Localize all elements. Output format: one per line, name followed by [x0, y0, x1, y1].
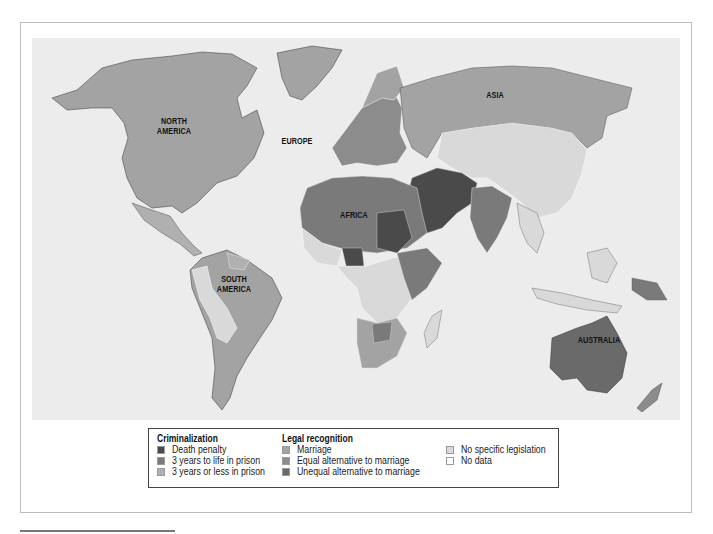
legend-swatch	[282, 468, 290, 476]
label-south-america: SOUTH AMERICA	[209, 274, 260, 294]
label-north-america: NORTH AMERICA	[149, 116, 200, 136]
footnote-rule	[20, 530, 175, 532]
map-legend: Criminalization Death penalty 3 years to…	[148, 428, 559, 488]
label-line: AMERICA	[209, 284, 260, 294]
label-line: AUSTRALIA	[574, 335, 625, 345]
legend-heading: Criminalization	[157, 433, 260, 444]
legend-criminalization: Criminalization Death penalty 3 years to…	[157, 433, 278, 477]
legend-item: 3 years to life in prison	[157, 455, 278, 466]
region-central-america	[132, 203, 202, 256]
legend-label: Death penalty	[172, 444, 226, 455]
region-borneo	[587, 248, 617, 283]
legend-heading: Legal recognition	[282, 433, 413, 444]
region-new-zealand	[637, 383, 662, 412]
legend-label: Marriage	[297, 444, 332, 455]
label-line: AMERICA	[149, 126, 200, 136]
legend-item: No data	[446, 455, 557, 466]
legend-item: Death penalty	[157, 444, 278, 455]
region-madagascar	[424, 310, 442, 348]
legend-label: 3 years to life in prison	[172, 455, 260, 466]
label-australia: AUSTRALIA	[574, 335, 625, 345]
region-png	[632, 278, 667, 300]
world-map: NORTH AMERICA EUROPE ASIA AFRICA SOUTH A…	[32, 38, 680, 420]
legend-item: Unequal alternative to marriage	[282, 466, 437, 477]
legend-other: No specific legislation No data	[446, 444, 557, 466]
legend-item: No specific legislation	[446, 444, 557, 455]
world-map-svg	[32, 38, 680, 420]
label-europe: EUROPE	[276, 136, 319, 146]
region-greenland	[277, 46, 342, 100]
legend-legal-recognition: Legal recognition Marriage Equal alterna…	[282, 433, 437, 477]
region-australia	[550, 316, 627, 393]
legend-swatch	[446, 446, 454, 454]
legend-label: Equal alternative to marriage	[297, 455, 410, 466]
region-south-asia	[470, 186, 512, 253]
region-indonesia	[532, 288, 622, 313]
label-line: NORTH	[149, 116, 200, 126]
legend-label: No specific legislation	[461, 444, 546, 455]
label-africa: AFRICA	[335, 210, 372, 220]
legend-item: Equal alternative to marriage	[282, 455, 437, 466]
label-asia: ASIA	[482, 90, 508, 100]
label-line: AFRICA	[335, 210, 372, 220]
legend-swatch	[282, 457, 290, 465]
legend-label: Unequal alternative to marriage	[297, 466, 420, 477]
legend-swatch	[446, 457, 454, 465]
label-line: EUROPE	[276, 136, 319, 146]
label-line: SOUTH	[209, 274, 260, 284]
legend-swatch	[157, 468, 165, 476]
legend-label: 3 years or less in prison	[172, 466, 265, 477]
legend-label: No data	[461, 455, 492, 466]
legend-swatch	[157, 446, 165, 454]
legend-item: Marriage	[282, 444, 437, 455]
legend-swatch	[282, 446, 290, 454]
label-line: ASIA	[482, 90, 508, 100]
region-namibia-botswana	[372, 322, 392, 343]
legend-item: 3 years or less in prison	[157, 466, 278, 477]
legend-swatch	[157, 457, 165, 465]
